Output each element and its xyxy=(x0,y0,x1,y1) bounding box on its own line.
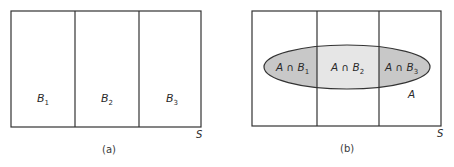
figure-b: A ∩ B1 A ∩ B2 A ∩ B3 A S (b) xyxy=(252,11,444,154)
event-label-a: A xyxy=(407,88,415,100)
sample-space-box-a xyxy=(11,11,201,127)
sample-space-label-a: S xyxy=(196,129,203,140)
caption-b: (b) xyxy=(340,143,354,154)
partition-label-b3: B3 xyxy=(166,92,178,107)
sample-space-label-b: S xyxy=(437,128,444,139)
partition-label-b1: B1 xyxy=(37,92,49,107)
figure-a: B1 B2 B3 S (a) xyxy=(11,11,203,155)
partition-label-b2: B2 xyxy=(101,92,113,107)
caption-a: (a) xyxy=(102,144,116,155)
diagram-canvas: B1 B2 B3 S (a) A ∩ B1 A ∩ B2 A ∩ B3 A S … xyxy=(0,0,454,167)
